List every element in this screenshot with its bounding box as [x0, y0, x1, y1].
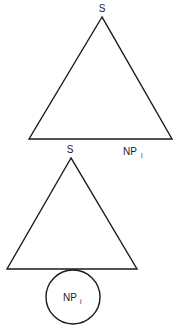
np-main-text: NP: [123, 146, 137, 157]
bottom-tree: NP i: [7, 158, 137, 324]
top-root-label: S: [99, 3, 106, 14]
top-yield-s-label: S: [67, 144, 74, 155]
top-triangle: [29, 17, 172, 139]
np-subscript-text: i: [141, 152, 143, 159]
top-tree: S S NP i: [29, 3, 172, 159]
np-subscript-text: i: [80, 298, 82, 305]
bottom-np-label: NP i: [63, 292, 82, 305]
bottom-triangle: [7, 158, 137, 269]
np-main-text: NP: [63, 292, 77, 303]
tree-diagram: S S NP i NP i: [0, 0, 179, 331]
top-yield-np-label: NP i: [123, 146, 143, 159]
